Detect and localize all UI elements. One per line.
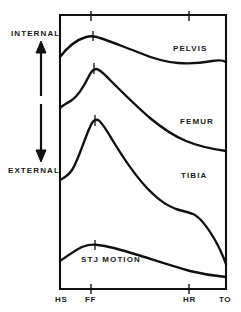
curve-label-pelvis: PELVIS — [173, 45, 207, 53]
direction-arrow-up — [36, 41, 46, 96]
curve-ff-markers — [93, 31, 95, 250]
stance-phase-rotation-chart: INTERNAL EXTERNAL PELVIS FEMUR TIBIA STJ… — [0, 0, 241, 312]
curve-label-stj-motion: STJ MOTION — [81, 256, 141, 264]
curve-label-tibia: TIBIA — [181, 172, 207, 180]
axis-label-internal: INTERNAL — [11, 30, 60, 38]
x-tick-label-to: TO — [219, 296, 231, 304]
plot-frame — [60, 15, 226, 289]
axis-label-external: EXTERNAL — [8, 167, 60, 175]
x-tick-label-ff: FF — [85, 296, 96, 304]
curve-label-femur: FEMUR — [180, 118, 214, 126]
curve-tibia — [60, 120, 226, 264]
direction-arrow-down — [36, 104, 46, 162]
x-tick-label-hr: HR — [183, 296, 196, 304]
x-tick-label-hs: HS — [55, 296, 67, 304]
